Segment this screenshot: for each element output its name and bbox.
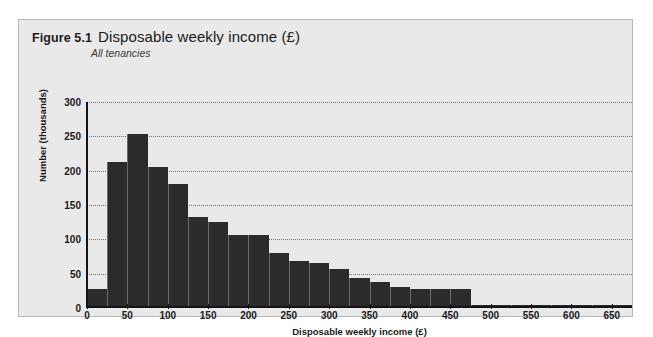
- x-tick-label-650: 650: [592, 310, 632, 321]
- x-tick-mark-200: [248, 304, 249, 309]
- histogram-bars: [87, 102, 632, 308]
- x-tick-mark-150: [208, 304, 209, 309]
- x-tick-label-450: 450: [430, 310, 470, 321]
- y-tick-label-50: 50: [47, 268, 81, 279]
- x-tick-mark-300: [329, 304, 330, 309]
- x-tick-mark-400: [410, 304, 411, 309]
- y-tick-label-250: 250: [47, 131, 81, 142]
- x-tick-mark-100: [168, 304, 169, 309]
- y-tick-label-200: 200: [47, 165, 81, 176]
- x-tick-mark-0: [87, 304, 88, 309]
- x-axis-label: Disposable weekly income (£): [87, 326, 632, 337]
- y-tick-label-150: 150: [47, 200, 81, 211]
- figure-heading: Figure 5.1Disposable weekly income (£): [32, 28, 300, 46]
- y-axis-label: Number (thousands): [37, 66, 48, 206]
- bar: [208, 222, 228, 308]
- x-tick-label-300: 300: [309, 310, 349, 321]
- figure-subtitle: All tenancies: [91, 47, 151, 59]
- bar: [168, 184, 188, 308]
- figure-container: Figure 5.1Disposable weekly income (£) A…: [18, 19, 633, 317]
- bar: [188, 217, 208, 308]
- x-tick-mark-50: [127, 304, 128, 309]
- plot-area: [87, 83, 632, 308]
- x-tick-label-0: 0: [67, 310, 107, 321]
- figure-number: Figure 5.1: [32, 31, 92, 45]
- x-tick-label-50: 50: [107, 310, 147, 321]
- x-axis-ticks: 050100150200250300350400450500550600650: [87, 310, 632, 326]
- bar: [269, 253, 289, 308]
- x-tick-label-350: 350: [350, 310, 390, 321]
- x-tick-mark-600: [571, 304, 572, 309]
- x-axis-line: [87, 306, 632, 308]
- x-tick-label-200: 200: [228, 310, 268, 321]
- bar: [127, 134, 147, 308]
- bar: [248, 235, 268, 308]
- bar: [148, 167, 168, 308]
- plot-inner: [87, 102, 632, 308]
- x-tick-label-600: 600: [551, 310, 591, 321]
- x-tick-mark-250: [289, 304, 290, 309]
- x-tick-label-150: 150: [188, 310, 228, 321]
- x-tick-mark-450: [450, 304, 451, 309]
- bar: [289, 261, 309, 308]
- x-tick-mark-650: [612, 304, 613, 309]
- x-tick-label-500: 500: [471, 310, 511, 321]
- y-tick-label-100: 100: [47, 234, 81, 245]
- x-tick-label-100: 100: [148, 310, 188, 321]
- bar: [228, 235, 248, 308]
- page-title: Disposable weekly income (£): [98, 28, 300, 45]
- x-tick-mark-550: [531, 304, 532, 309]
- bar: [370, 282, 390, 308]
- x-tick-label-250: 250: [269, 310, 309, 321]
- x-tick-mark-350: [370, 304, 371, 309]
- bar: [349, 278, 369, 308]
- bar: [390, 287, 410, 308]
- y-axis-line: [86, 102, 88, 308]
- bar: [309, 263, 329, 308]
- x-tick-label-400: 400: [390, 310, 430, 321]
- y-tick-label-300: 300: [47, 97, 81, 108]
- x-tick-label-550: 550: [511, 310, 551, 321]
- bar: [107, 162, 127, 308]
- x-tick-mark-500: [491, 304, 492, 309]
- bar: [329, 269, 349, 308]
